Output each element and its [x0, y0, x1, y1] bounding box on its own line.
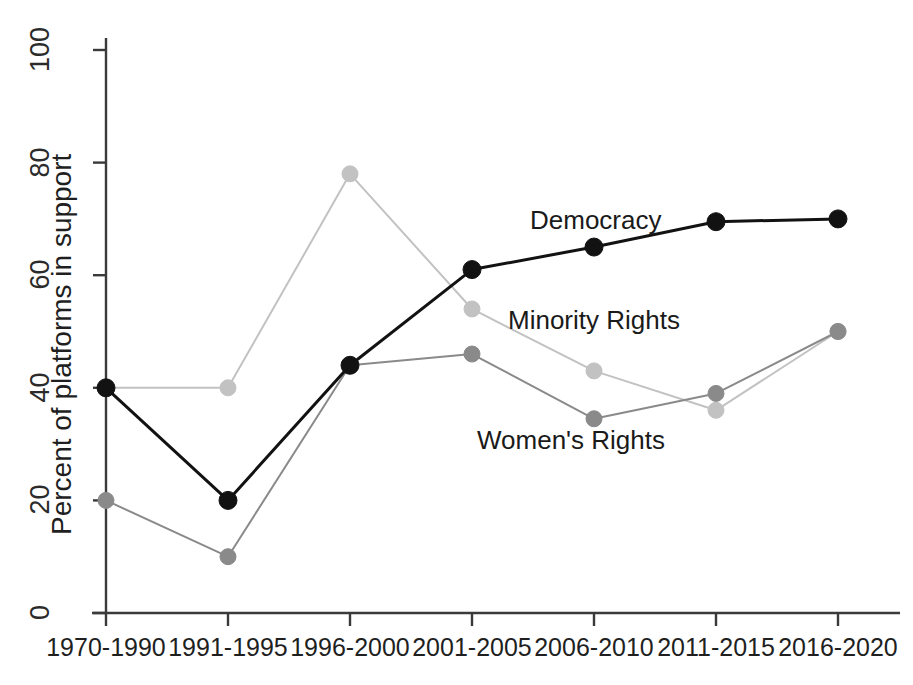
data-point-marker — [220, 380, 236, 396]
data-point-marker — [342, 166, 358, 182]
y-axis-tick-label: 80 — [25, 122, 56, 202]
x-axis-tick-label: 2006-2010 — [524, 633, 664, 662]
y-axis-tick-label: 20 — [25, 460, 56, 540]
series-line — [106, 332, 838, 557]
data-point-marker — [464, 301, 480, 317]
line-chart-canvas — [0, 0, 913, 685]
data-point-marker — [219, 491, 237, 509]
series-annotation-label: Minority Rights — [508, 305, 680, 336]
data-point-marker — [708, 385, 724, 401]
data-point-marker — [98, 492, 114, 508]
x-axis-tick-label: 1996-2000 — [280, 633, 420, 662]
y-axis-tick-label: 40 — [25, 347, 56, 427]
data-point-marker — [586, 363, 602, 379]
x-axis-tick-label: 1991-1995 — [158, 633, 298, 662]
data-point-marker — [830, 324, 846, 340]
series-line — [106, 174, 838, 410]
data-point-marker — [829, 210, 847, 228]
series-annotation-label: Women's Rights — [477, 425, 665, 456]
data-point-marker — [463, 261, 481, 279]
x-axis-tick-label: 2011-2015 — [646, 633, 786, 662]
data-point-marker — [341, 356, 359, 374]
data-point-marker — [707, 213, 725, 231]
y-axis-tick-label: 100 — [25, 10, 56, 90]
data-point-marker — [464, 346, 480, 362]
data-point-marker — [97, 379, 115, 397]
series-minority-rights — [98, 166, 846, 418]
y-axis-tick-label: 60 — [25, 235, 56, 315]
series-women-s-rights — [98, 324, 846, 565]
series-annotation-label: Democracy — [530, 205, 661, 236]
x-axis-tick-label: 1970-1990 — [36, 633, 176, 662]
x-axis-tick-label: 2001-2005 — [402, 633, 542, 662]
data-point-marker — [220, 549, 236, 565]
chart-figure: Percent of platforms in support 02040608… — [0, 0, 913, 685]
data-point-marker — [585, 238, 603, 256]
data-point-marker — [708, 402, 724, 418]
x-axis-tick-label: 2016-2020 — [768, 633, 908, 662]
